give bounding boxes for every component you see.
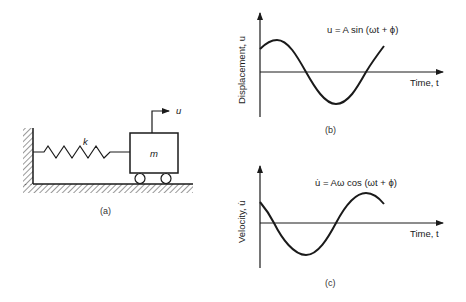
panel-c-velocity-plot: u̇ = Aω cos (ωt + ϕ) Time, t Velocity, u… bbox=[236, 166, 443, 288]
velocity-curve bbox=[260, 193, 384, 255]
wall-hatching bbox=[23, 128, 33, 185]
panel-a-spring-mass-system: u m k (a) bbox=[23, 105, 193, 216]
displacement-arrow bbox=[152, 111, 169, 133]
figure-canvas: u m k (a) u = A sin (ωt + ϕ) Time, t Dis… bbox=[0, 0, 466, 302]
panel-b-displacement-plot: u = A sin (ωt + ϕ) Time, t Displacement,… bbox=[236, 13, 443, 135]
mass-label: m bbox=[150, 148, 158, 159]
x-axis-label: Time, t bbox=[410, 228, 439, 239]
y-axis-label: Velocity, u̇ bbox=[236, 200, 247, 243]
y-axis-label: Displacement, u bbox=[236, 36, 247, 104]
caption-c: (c) bbox=[325, 278, 336, 288]
spring-label: k bbox=[83, 136, 89, 147]
floor-hatching bbox=[23, 184, 193, 193]
displacement-label: u bbox=[176, 105, 182, 116]
wheel-left bbox=[135, 174, 145, 184]
caption-a: (a) bbox=[100, 206, 111, 216]
velocity-equation: u̇ = Aω cos (ωt + ϕ) bbox=[315, 177, 397, 188]
displacement-equation: u = A sin (ωt + ϕ) bbox=[327, 24, 398, 35]
caption-b: (b) bbox=[325, 125, 336, 135]
wheel-right bbox=[161, 174, 171, 184]
x-axis-label: Time, t bbox=[410, 77, 439, 88]
spring bbox=[33, 146, 130, 158]
